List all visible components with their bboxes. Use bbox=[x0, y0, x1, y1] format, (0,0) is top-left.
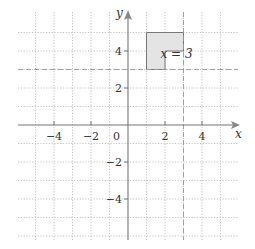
mirror-line-label: x = 3 bbox=[161, 47, 193, 61]
x-tick-label: −4 bbox=[46, 130, 62, 143]
y-tick-label: −2 bbox=[106, 156, 122, 169]
y-tick-label: 4 bbox=[115, 45, 122, 58]
grid-svg: x = 3 xy −4−202442−2−4 bbox=[0, 0, 255, 249]
x-tick-label: −2 bbox=[83, 130, 99, 143]
axes: xy bbox=[18, 6, 242, 240]
y-tick-label: −4 bbox=[106, 193, 122, 206]
y-tick-label: 2 bbox=[115, 82, 122, 95]
y-axis-label: y bbox=[115, 6, 123, 20]
coordinate-diagram: x = 3 xy −4−202442−2−4 bbox=[0, 0, 255, 249]
x-axis-label: x bbox=[235, 127, 242, 141]
origin-label: 0 bbox=[113, 130, 120, 143]
x-tick-label: 2 bbox=[162, 130, 169, 143]
x-tick-label: 4 bbox=[199, 130, 206, 143]
